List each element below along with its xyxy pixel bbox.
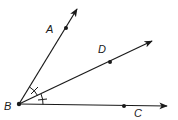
point-a-dot bbox=[64, 26, 68, 30]
label-c: C bbox=[134, 107, 142, 119]
ray-bc bbox=[19, 104, 167, 106]
geometry-diagram: B A D C bbox=[0, 0, 178, 120]
label-b: B bbox=[4, 100, 11, 112]
angle-tick-dbc bbox=[38, 99, 47, 100]
angle-tick-abd bbox=[31, 87, 38, 94]
vertex-b-dot bbox=[17, 102, 21, 106]
point-c-dot bbox=[122, 104, 126, 108]
label-a: A bbox=[45, 23, 53, 35]
point-d-dot bbox=[108, 60, 112, 64]
label-d: D bbox=[98, 43, 106, 55]
ray-bd bbox=[19, 41, 152, 104]
